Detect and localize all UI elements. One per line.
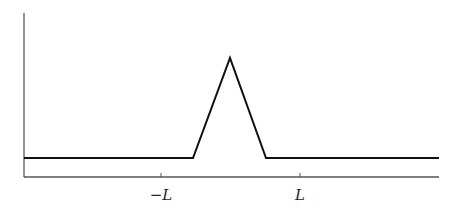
triangular-peak-curve xyxy=(24,58,439,158)
function-plot: −L L xyxy=(0,0,460,212)
tick-label-neg-L: −L xyxy=(150,186,173,204)
tick-label-pos-L: L xyxy=(294,186,305,204)
